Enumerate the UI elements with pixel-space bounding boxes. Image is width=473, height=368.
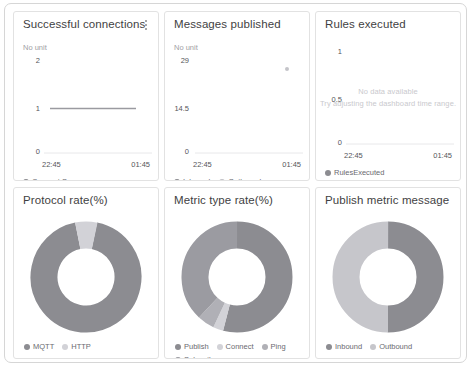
- chart-legend: Connect.Success: [14, 173, 158, 181]
- panel-title: Protocol rate(%): [23, 194, 150, 206]
- panel-publish-metric-message-rate: Publish metric message r... Inbound O: [315, 187, 461, 359]
- legend-item[interactable]: MQTT: [24, 342, 54, 351]
- legend-label: Outbound: [228, 177, 261, 181]
- y-tick: 0: [16, 147, 40, 156]
- y-tick: 1: [16, 104, 40, 113]
- donut-chart-publish-metric-message-rate: [316, 216, 460, 336]
- x-axis: 22:45 01:45: [344, 151, 452, 164]
- x-tick-end: 01:45: [433, 151, 452, 160]
- legend-swatch-icon: [175, 344, 181, 350]
- panel-header: Metric type rate(%): [165, 188, 309, 216]
- legend-label: Connect.Success: [32, 177, 90, 181]
- chart-legend: Publish Connect Ping Subscribe: [165, 336, 309, 359]
- empty-state-hint: Try adjusting the dashboard time range.: [316, 99, 460, 108]
- legend-item[interactable]: Connect.Success: [23, 177, 90, 181]
- y-tick: 0: [318, 138, 342, 147]
- panel-rules-executed: Rules executed 1 0.5 0 No data available…: [315, 11, 461, 181]
- y-tick: 29: [165, 56, 189, 65]
- legend-swatch-icon: [23, 179, 29, 182]
- empty-state-title: No data available: [316, 87, 460, 96]
- donut-chart-metric-type-rate: [165, 216, 309, 336]
- legend-label: Ping: [271, 342, 286, 351]
- chart-legend: Inbound Outbound: [316, 336, 460, 351]
- legend-swatch-icon: [326, 344, 332, 350]
- legend-item[interactable]: Connect: [217, 342, 254, 351]
- panel-header: Rules executed: [316, 12, 460, 40]
- line-chart-successful-connections: 2 1 0: [14, 52, 158, 160]
- panel-title: Metric type rate(%): [174, 194, 301, 206]
- panel-successful-connections: Successful connections No unit 2 1 0 22:…: [13, 11, 159, 181]
- legend-swatch-icon: [219, 179, 225, 182]
- legend-item[interactable]: RulesExecuted: [325, 168, 384, 177]
- legend-label: MQTT: [33, 342, 54, 351]
- chart-messages-published: 29 14.5 0: [165, 52, 309, 160]
- y-tick: 0: [165, 147, 189, 156]
- chart-rules-executed: 1 0.5 0 No data available Try adjusting …: [316, 43, 460, 151]
- chart-legend: RulesExecuted: [316, 164, 460, 177]
- legend-item[interactable]: Subscribe: [175, 355, 217, 359]
- legend-swatch-icon: [62, 344, 68, 350]
- x-tick-end: 01:45: [282, 160, 301, 169]
- panel-title: Successful connections: [23, 18, 150, 30]
- legend-item[interactable]: Publish: [175, 342, 209, 351]
- dashboard-container: Successful connections No unit 2 1 0 22:…: [4, 3, 467, 363]
- legend-swatch-icon: [325, 170, 331, 176]
- legend-label: Subscribe: [184, 355, 217, 359]
- x-tick-start: 22:45: [193, 160, 212, 169]
- x-axis: 22:45 01:45: [42, 160, 150, 173]
- donut-svg: [30, 221, 142, 333]
- legend-label: RulesExecuted: [334, 168, 384, 177]
- y-tick: 14.5: [165, 104, 189, 113]
- chart-legend: Inbound Outbound: [165, 173, 309, 181]
- panel-messages-published: Messages published No unit 29 14.5 0 22:…: [164, 11, 310, 181]
- panel-title: Messages published: [174, 18, 301, 30]
- legend-label: Inbound: [183, 177, 210, 181]
- legend-swatch-icon: [217, 344, 223, 350]
- legend-item[interactable]: Outbound: [219, 177, 261, 181]
- donut-svg: [181, 221, 293, 333]
- panel-header: Messages published: [165, 12, 309, 40]
- panel-header: Protocol rate(%): [14, 188, 158, 216]
- x-tick-end: 01:45: [131, 160, 150, 169]
- x-axis: 22:45 01:45: [193, 160, 301, 173]
- y-tick: 2: [16, 56, 40, 65]
- legend-item[interactable]: Ping: [262, 342, 286, 351]
- panel-header: Successful connections: [14, 12, 158, 40]
- panel-unit-label: No unit: [23, 43, 158, 52]
- legend-label: Connect: [226, 342, 254, 351]
- legend-item[interactable]: Outbound: [370, 342, 412, 351]
- legend-item[interactable]: Inbound: [326, 342, 362, 351]
- y-tick: 1: [318, 47, 342, 56]
- legend-label: Publish: [184, 342, 209, 351]
- panel-grid: Successful connections No unit 2 1 0 22:…: [13, 11, 461, 359]
- panel-header: Publish metric message r...: [316, 188, 460, 216]
- panel-metric-type-rate: Metric type rate(%) Publish: [164, 187, 310, 359]
- legend-label: Outbound: [379, 342, 412, 351]
- legend-item[interactable]: Inbound: [174, 177, 210, 181]
- legend-swatch-icon: [175, 357, 181, 360]
- legend-label: Inbound: [335, 342, 362, 351]
- x-tick-start: 22:45: [344, 151, 363, 160]
- panel-unit-label: No unit: [174, 43, 309, 52]
- legend-item[interactable]: HTTP: [62, 342, 91, 351]
- data-point: [285, 67, 289, 71]
- panel-title: Rules executed: [325, 18, 452, 30]
- legend-swatch-icon: [370, 344, 376, 350]
- panel-title: Publish metric message r...: [325, 194, 452, 206]
- x-tick-start: 22:45: [42, 160, 61, 169]
- legend-swatch-icon: [24, 344, 30, 350]
- legend-label: HTTP: [71, 342, 91, 351]
- donut-svg: [332, 221, 444, 333]
- kebab-menu-icon[interactable]: [141, 19, 151, 31]
- legend-swatch-icon: [262, 344, 268, 350]
- donut-chart-protocol-rate: [14, 216, 158, 336]
- legend-swatch-icon: [174, 179, 180, 182]
- chart-legend: MQTT HTTP: [14, 336, 158, 351]
- panel-protocol-rate: Protocol rate(%) MQTT HTTP: [13, 187, 159, 359]
